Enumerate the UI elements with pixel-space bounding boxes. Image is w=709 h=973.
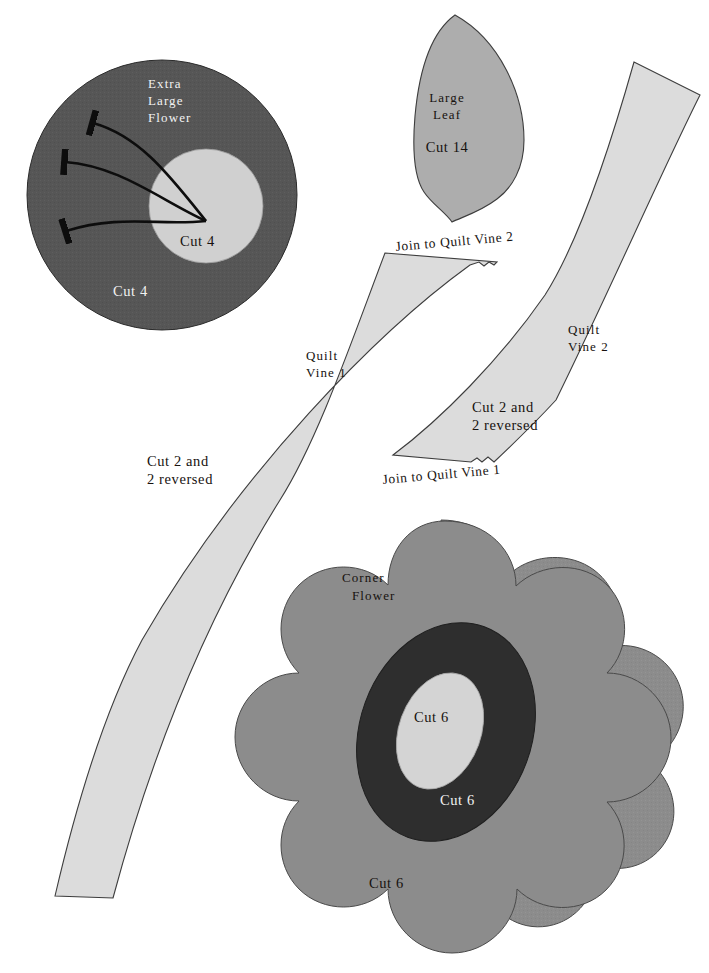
quilt-vine-1-cut-line2: 2 reversed <box>147 471 213 487</box>
extra-large-flower-title-line1: Extra <box>148 76 182 91</box>
extra-large-flower-outer-cut-label: Cut 4 <box>113 283 148 299</box>
corner-flower-ring-cut-label: Cut 6 <box>440 792 475 808</box>
quilt-vine-1-title-line1: Quilt <box>306 348 338 363</box>
pattern-canvas: Extra Large Flower Cut 4 Cut 4 Large Lea… <box>0 0 709 973</box>
corner-flower-petal-cut-label: Cut 6 <box>369 875 404 891</box>
quilt-vine-2-title-line1: Quilt <box>568 322 600 337</box>
large-leaf-title-line2: Leaf <box>433 107 461 122</box>
corner-flower-title-line2: Flower <box>352 588 395 603</box>
quilt-vine-1-title-line2: Vine 1 <box>306 365 347 380</box>
quilt-vine-2-title-line2: Vine 2 <box>568 339 609 354</box>
corner-flower-center-cut-label: Cut 6 <box>414 709 449 725</box>
large-leaf-cut-label: Cut 14 <box>426 139 469 155</box>
quilt-vine-2-cut-line1: Cut 2 and <box>472 399 534 415</box>
piece-extra-large-flower[interactable]: Extra Large Flower Cut 4 Cut 4 <box>27 60 297 330</box>
quilt-vine-2-cut-line2: 2 reversed <box>472 417 538 433</box>
quilt-vine-1-cut-line1: Cut 2 and <box>147 453 209 469</box>
extra-large-flower-title-line2: Large <box>148 93 184 108</box>
pattern-sheet: Extra Large Flower Cut 4 Cut 4 Large Lea… <box>0 0 709 973</box>
corner-flower-title-line1: Corner <box>342 570 385 585</box>
extra-large-flower-inner-cut-label: Cut 4 <box>180 233 215 249</box>
large-leaf-title-line1: Large <box>429 90 465 105</box>
extra-large-flower-title-line3: Flower <box>148 110 191 125</box>
